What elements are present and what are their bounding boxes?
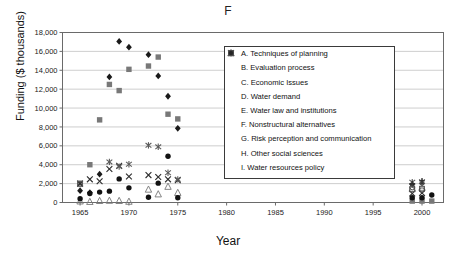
- legend-item-b[interactable]: B. Evaluation process: [225, 61, 394, 75]
- data-point: [97, 117, 102, 122]
- y-tick-label: 4,000: [39, 160, 58, 169]
- data-point: [116, 176, 121, 181]
- data-point: [146, 51, 152, 58]
- chart-figure: F Funding ($ thousands) Year 02,0004,000…: [0, 0, 456, 255]
- data-point: [87, 198, 93, 204]
- data-point: [116, 38, 122, 45]
- y-tick-label: 14,000: [35, 66, 58, 75]
- data-point: [165, 176, 171, 182]
- legend-item-label: H. Other social sciences: [241, 150, 323, 158]
- data-point: [77, 187, 83, 194]
- filled-circle-icon: [229, 119, 241, 131]
- data-point: [165, 111, 170, 116]
- data-point: [175, 189, 181, 195]
- data-point: [156, 180, 161, 185]
- cross-x-icon: [229, 91, 241, 103]
- legend-item-label: B. Evaluation process: [241, 64, 314, 72]
- y-tick-label: 12,000: [35, 85, 58, 94]
- y-tick-label: 2,000: [39, 179, 58, 188]
- x-tick-label: 1980: [218, 208, 235, 217]
- data-point: [155, 174, 161, 180]
- legend-item-e[interactable]: E. Water law and institutions: [225, 104, 394, 118]
- data-point: [146, 63, 151, 68]
- x-tick-label: 1985: [267, 208, 284, 217]
- data-point: [87, 162, 92, 167]
- data-point: [145, 186, 151, 192]
- data-point: [77, 196, 82, 201]
- data-point: [165, 170, 171, 176]
- data-point: [175, 195, 180, 200]
- data-point: [175, 176, 181, 182]
- data-point: [165, 183, 171, 189]
- x-tick-label: 1970: [121, 208, 138, 217]
- data-point: [155, 73, 161, 80]
- data-point: [106, 166, 112, 172]
- open-circle-icon: [229, 162, 241, 174]
- data-point: [429, 198, 434, 203]
- data-point: [107, 82, 112, 87]
- data-point: [126, 44, 132, 51]
- data-point: [106, 73, 112, 80]
- x-tick-label: 2000: [414, 208, 431, 217]
- legend-item-a[interactable]: A. Techniques of planning: [225, 47, 394, 61]
- data-point: [87, 191, 92, 196]
- y-tick-label: 8,000: [39, 123, 58, 132]
- filled-square-icon: [229, 62, 241, 74]
- data-point: [146, 195, 151, 200]
- y-tick-label: 10,000: [35, 104, 58, 113]
- legend-item-label: F. Nonstructural alternatives: [241, 121, 335, 129]
- y-tick-label: 6,000: [39, 141, 58, 150]
- x-tick-label: 1995: [365, 208, 382, 217]
- y-tick-label: 0: [53, 198, 57, 207]
- data-point: [116, 163, 122, 169]
- plus-icon: [229, 133, 241, 145]
- data-point: [126, 67, 131, 72]
- data-point: [429, 192, 434, 197]
- chart-legend: A. Techniques of planningB. Evaluation p…: [224, 46, 395, 179]
- legend-item-label: A. Techniques of planning: [241, 50, 328, 58]
- legend-item-label: D. Water demand: [241, 93, 300, 101]
- data-point: [126, 185, 131, 190]
- data-point: [165, 154, 170, 159]
- legend-item-label: E. Water law and institutions: [241, 107, 337, 115]
- asterisk-icon: [229, 105, 241, 117]
- legend-item-d[interactable]: D. Water demand: [225, 90, 394, 104]
- data-point: [107, 188, 112, 193]
- data-point: [87, 176, 93, 182]
- data-point: [165, 93, 171, 100]
- data-point: [410, 195, 415, 200]
- data-point: [97, 171, 103, 178]
- data-point: [155, 144, 161, 150]
- data-point: [126, 161, 132, 167]
- x-tick-label: 1965: [72, 208, 89, 217]
- data-point: [155, 191, 161, 197]
- data-point: [146, 172, 152, 178]
- data-point: [97, 189, 102, 194]
- legend-item-h[interactable]: H. Other social sciences: [225, 146, 394, 160]
- data-point: [116, 88, 121, 93]
- legend-item-label: G. Risk perception and communication: [241, 135, 371, 143]
- x-tick-label: 1990: [316, 208, 333, 217]
- data-point: [106, 159, 112, 165]
- data-point: [146, 142, 152, 148]
- legend-item-label: C. Economic Issues: [241, 79, 308, 87]
- legend-item-i[interactable]: I. Water resources policy: [225, 161, 394, 175]
- legend-item-g[interactable]: G. Risk perception and communication: [225, 132, 394, 146]
- legend-item-label: I. Water resources policy: [241, 164, 324, 172]
- x-tick-label: 1975: [169, 208, 186, 217]
- open-circle-glyph: [229, 51, 234, 56]
- legend-item-f[interactable]: F. Nonstructural alternatives: [225, 118, 394, 132]
- open-triangle-icon: [229, 76, 241, 88]
- y-tick-label: 18,000: [35, 28, 58, 37]
- data-point: [156, 54, 161, 59]
- data-point: [175, 116, 180, 121]
- data-point: [419, 195, 424, 200]
- y-tick-label: 16,000: [35, 47, 58, 56]
- data-point: [126, 174, 132, 180]
- legend-item-c[interactable]: C. Economic Issues: [225, 75, 394, 89]
- data-point: [175, 125, 181, 132]
- open-square-icon: [229, 147, 241, 159]
